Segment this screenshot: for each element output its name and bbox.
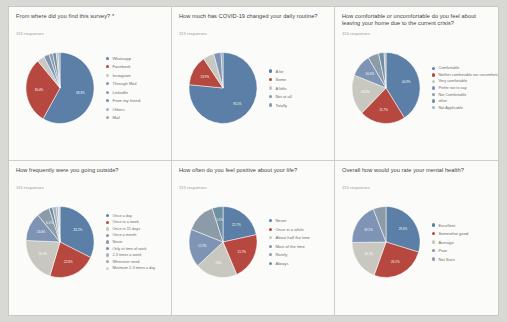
legend-swatch-icon: [269, 69, 272, 72]
legend-item[interactable]: Once a month: [106, 232, 164, 238]
legend-going-outside-frequency: Once a dayOnce in a weekOnce in 15 daysO…: [104, 213, 164, 272]
legend-item[interactable]: Very comfortable: [432, 78, 498, 84]
legend-item-label: other: [438, 99, 447, 103]
legend-item[interactable]: A lot: [269, 68, 327, 75]
pie-slice-label: 6.1%: [46, 221, 53, 225]
chart-grid: From where did you find this survey? * 1…: [9, 7, 498, 315]
chart-row: 32.2%22.6%20.9%13.0%6.1% Once a dayOnce …: [16, 194, 164, 290]
pie-slice-label: 26.1%: [391, 260, 400, 264]
legend-item-label: Only at time of work: [112, 247, 146, 251]
legend-item-label: Very comfortable: [438, 79, 467, 83]
pie-slice-label: 18.3%: [361, 90, 370, 94]
legend-item-label: Most of the time: [275, 244, 304, 249]
legend-item[interactable]: Poor: [432, 247, 491, 254]
chart-row: 76.5%13.9% A lotSomeA littleNot at allTo…: [179, 40, 327, 136]
page-title: Overall how would you rate your mental h…: [342, 167, 491, 182]
legend-item[interactable]: Mail: [106, 114, 164, 121]
legend-item[interactable]: Once in a week: [106, 219, 164, 225]
pie-slice-label: 20.9%: [38, 252, 47, 256]
legend-item-label: Totally: [275, 103, 287, 108]
legend-item[interactable]: Facebook: [106, 63, 164, 70]
legend-swatch-icon: [106, 267, 109, 270]
response-count: 115 responses: [179, 185, 327, 190]
legend-swatch-icon: [432, 93, 435, 96]
pie-slice-label: 58.3%: [76, 91, 85, 95]
legend-swatch-icon: [432, 240, 435, 243]
legend-item[interactable]: Not Comfortable: [432, 92, 498, 98]
legend-item[interactable]: Excellent: [432, 222, 491, 229]
legend-item[interactable]: Once in a while: [269, 226, 327, 233]
legend-item-label: Whatsapp: [112, 56, 131, 61]
legend-swatch-icon: [106, 82, 109, 85]
chart-row: 21.7%21.7%20%17.2%5.1% NeverOnce in a wh…: [179, 194, 327, 290]
legend-item[interactable]: Only at time of work: [106, 246, 164, 252]
legend-leaving-home-comfort: ComfortableNeither comfortable nor uncom…: [430, 65, 498, 111]
legend-routine-change: A lotSomeA littleNot at allTotally: [267, 68, 327, 109]
legend-item[interactable]: LinkedIn: [106, 89, 164, 96]
legend-item[interactable]: Totally: [269, 102, 327, 109]
chart-card-positive-about-life: How often do you feel positive about you…: [172, 161, 335, 315]
legend-item[interactable]: Somewhat good: [432, 230, 491, 237]
legend-item[interactable]: Minimum 2-3 times a day: [106, 265, 164, 271]
survey-results-sheet: From where did you find this survey? * 1…: [8, 6, 499, 316]
legend-item[interactable]: other: [432, 98, 498, 104]
pie-chart-positive-about-life: 21.7%21.7%20%17.2%5.1%: [179, 195, 267, 289]
legend-item-label: Not Sure: [438, 257, 454, 262]
legend-item[interactable]: Rarely: [269, 251, 327, 258]
chart-card-routine-change: How much has COVID-19 changed your daily…: [172, 7, 335, 161]
pie-slice-label: 10.4%: [366, 72, 375, 76]
pie-slice-label: 17.2%: [198, 244, 207, 248]
legend-item-label: Mail: [112, 115, 120, 120]
legend-swatch-icon: [106, 116, 109, 119]
legend-item[interactable]: Once a day: [106, 213, 164, 219]
legend-item-label: Never: [275, 218, 286, 223]
legend-item-label: Once in a week: [112, 220, 138, 224]
legend-item[interactable]: Never: [269, 217, 327, 224]
legend-item[interactable]: Not at all: [269, 93, 327, 100]
legend-swatch-icon: [106, 253, 109, 256]
legend-item-label: Not at all: [275, 94, 291, 99]
legend-item[interactable]: Through Mail: [106, 80, 164, 87]
legend-item-label: Comfortable: [438, 66, 459, 70]
legend-item[interactable]: Once in 15 days: [106, 226, 164, 232]
legend-item[interactable]: Some: [269, 76, 327, 83]
legend-item[interactable]: Comfortable: [432, 65, 498, 71]
legend-item[interactable]: Whenever need: [106, 259, 164, 265]
legend-item-label: Minimum 2-3 times a day: [112, 266, 155, 270]
legend-item-label: Rarely: [275, 252, 287, 257]
legend-item[interactable]: From my friend: [106, 97, 164, 104]
legend-item[interactable]: Others: [106, 106, 164, 113]
legend-survey-source: WhatsappFacebookInstagramThrough MailLin…: [104, 55, 164, 122]
legend-item-label: Poor: [438, 248, 447, 253]
response-count: 115 responses: [16, 185, 164, 190]
legend-item-label: LinkedIn: [112, 90, 128, 95]
legend-item[interactable]: Whatsapp: [106, 55, 164, 62]
legend-swatch-icon: [269, 95, 272, 98]
legend-swatch-icon: [106, 91, 109, 94]
legend-swatch-icon: [269, 228, 272, 231]
legend-item[interactable]: Not Sure: [432, 256, 491, 263]
legend-item[interactable]: A little: [269, 85, 327, 92]
pie-chart-leaving-home-comfort: 40.9%21.7%18.3%10.4%: [342, 41, 430, 135]
pie-slice-label: 19.1%: [364, 228, 373, 232]
legend-item[interactable]: Not Applicable: [432, 105, 498, 111]
legend-item[interactable]: About half the time: [269, 234, 327, 241]
legend-item[interactable]: Instagram: [106, 72, 164, 79]
legend-item-label: About half the time: [275, 235, 310, 240]
legend-item[interactable]: Average: [432, 239, 491, 246]
legend-swatch-icon: [106, 227, 109, 230]
legend-item[interactable]: Neither comfortable nor uncomfortable: [432, 72, 498, 78]
legend-item-label: Some: [275, 77, 286, 82]
pie-chart-mental-health-rating: 29.6%26.1%19.1%19.1%: [342, 195, 430, 289]
legend-item[interactable]: Always: [269, 260, 327, 267]
legend-item[interactable]: 2-3 times a week: [106, 252, 164, 258]
page-title: How much has COVID-19 changed your daily…: [179, 13, 327, 28]
legend-mental-health-rating: ExcellentSomewhat goodAveragePoorNot Sur…: [430, 222, 491, 263]
pie-slice-label: 40.9%: [402, 80, 411, 84]
legend-item[interactable]: Most of the time: [269, 243, 327, 250]
pie-slice-label: 13.0%: [37, 230, 46, 234]
legend-item[interactable]: Prefer not to say: [432, 85, 498, 91]
legend-item[interactable]: Never: [106, 239, 164, 245]
legend-swatch-icon: [106, 234, 109, 237]
legend-item-label: A lot: [275, 69, 283, 74]
